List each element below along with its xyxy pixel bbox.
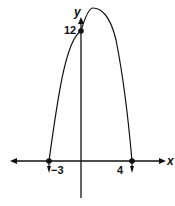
x-axis-right-arrow-icon (159, 158, 166, 164)
y-intercept-label: 12 (64, 24, 76, 36)
parabola-curve (49, 8, 132, 161)
point-x-intercept-left (46, 158, 52, 164)
point-y-intercept (78, 28, 84, 34)
x-axis (10, 158, 166, 164)
point-x-intercept-right (129, 158, 135, 164)
graph-canvas: y x 12 −3 4 (0, 0, 175, 206)
curve-right-arrow-icon (130, 166, 134, 173)
y-axis-label: y (73, 5, 82, 19)
x-axis-left-arrow-icon (10, 158, 17, 164)
x-intercept-left-label: −3 (51, 164, 64, 176)
x-intercept-right-label: 4 (117, 164, 124, 176)
y-axis (78, 17, 84, 198)
x-axis-label: x (166, 154, 175, 168)
